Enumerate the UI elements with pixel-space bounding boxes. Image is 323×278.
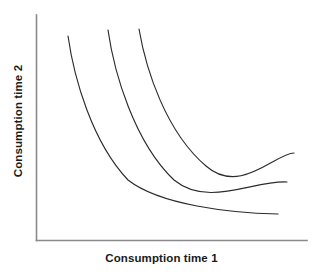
plot-canvas [0, 0, 323, 278]
y-axis-label-container: Consumption time 2 [0, 0, 36, 242]
x-axis-label: Consumption time 1 [0, 252, 323, 264]
y-axis-label: Consumption time 2 [12, 65, 24, 177]
indifference-curve-3 [139, 29, 294, 177]
indifference-curve-figure: Consumption time 2 Consumption time 1 [0, 0, 323, 278]
